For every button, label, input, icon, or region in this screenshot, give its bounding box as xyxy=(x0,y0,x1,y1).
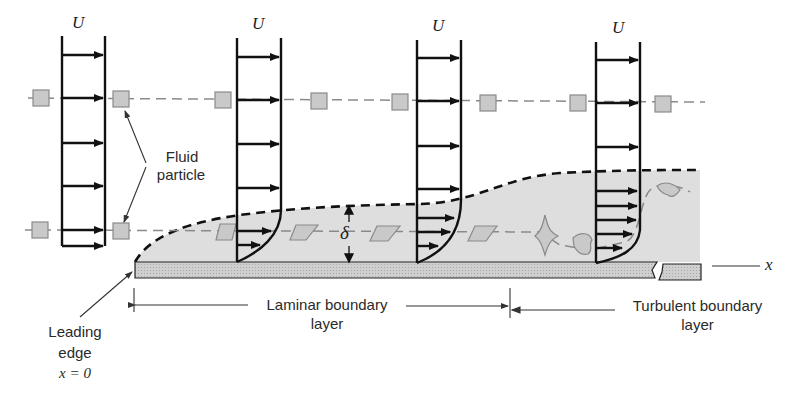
turbulent-label-line2: layer xyxy=(615,316,780,334)
x-axis-label: x xyxy=(765,255,773,275)
upper-fluid-particles xyxy=(33,90,671,112)
boundary-layer-diagram xyxy=(0,0,785,394)
turbulent-label-line1: Turbulent boundary xyxy=(615,297,780,315)
uniform-velocity-profile xyxy=(62,36,105,246)
fluid-particle-label-line2: particle xyxy=(146,166,216,184)
leading-edge-pointer xyxy=(80,272,132,317)
flat-plate xyxy=(135,262,657,278)
flat-plate-end xyxy=(659,264,701,280)
fluid-particle-label-line1: Fluid xyxy=(152,148,212,166)
velocity-label-u-3: U xyxy=(432,16,444,36)
velocity-label-u-2: U xyxy=(252,14,264,34)
leading-edge-label-line1: Leading xyxy=(40,323,110,341)
laminar-label-line1: Laminar boundary xyxy=(252,296,402,314)
velocity-label-u-4: U xyxy=(612,18,624,38)
leading-edge-label-line3: x = 0 xyxy=(40,364,110,382)
fluid-particle-pointers xyxy=(124,111,146,222)
laminar-label-line2: layer xyxy=(252,315,402,333)
leading-edge-label-line2: edge xyxy=(40,344,110,362)
velocity-label-u-1: U xyxy=(72,13,84,33)
delta-label: δ xyxy=(340,222,349,244)
